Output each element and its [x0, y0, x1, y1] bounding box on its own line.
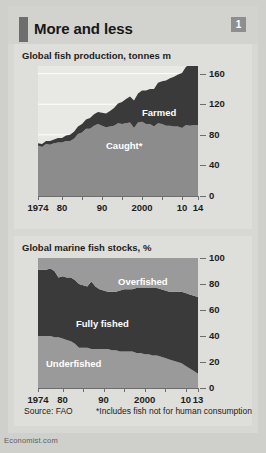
y-tick: 40: [200, 336, 246, 337]
y-tick: 40: [200, 165, 246, 166]
y-tick: 100: [200, 258, 246, 259]
plot-fish-production: [38, 66, 198, 196]
y-tick-mark: [200, 310, 206, 311]
y-tick-mark: [200, 362, 206, 363]
y-tick: 60: [200, 310, 246, 311]
panel-fish-production: Global fish production, tonnes m Caught*…: [14, 44, 252, 229]
x-tick-mark: [82, 196, 83, 200]
panel-title-fish-production: Global fish production, tonnes m: [22, 50, 171, 61]
source-text: Source: FAO: [24, 406, 73, 416]
x-tick-label: 1974: [27, 202, 48, 213]
x-tick-mark: [198, 388, 199, 392]
x-tick-mark: [162, 196, 163, 200]
chart-header: More and less 1: [8, 6, 258, 44]
y-tick-label: 80: [209, 278, 220, 289]
x-tick-mark: [62, 196, 63, 200]
y-tick: 160: [200, 74, 246, 75]
fish-production-svg: [38, 66, 198, 196]
y-tick-label: 120: [209, 98, 225, 109]
panel-marine-fish-stocks: Global marine fish stocks, % Overfished …: [14, 236, 252, 426]
y-tick-label: 40: [209, 330, 220, 341]
y-tick-mark: [200, 284, 206, 285]
x-tick-mark: [38, 388, 39, 392]
y-tick-label: 0: [209, 382, 214, 393]
x-tick-label: 2000: [131, 202, 152, 213]
x-tick-mark: [186, 388, 187, 392]
x-axis-fish-production: 1974809020001014: [38, 196, 198, 216]
x-tick-mark: [102, 196, 103, 200]
x-tick-mark: [63, 388, 64, 392]
title-rule: [19, 17, 28, 42]
x-tick-mark: [104, 388, 105, 392]
chart-footnote: Source: FAO *Includes fish not for human…: [14, 404, 252, 422]
y-tick-mark: [200, 336, 206, 337]
y-tick-mark: [200, 258, 206, 259]
x-tick-label: 14: [193, 202, 204, 213]
series-label-underfished: Underfished: [46, 358, 101, 369]
x-tick-mark: [38, 196, 39, 200]
brand-text: Economist.com: [4, 436, 58, 445]
y-axis-marine-fish-stocks: 0 20 40 60 80: [200, 252, 246, 394]
y-tick-label: 0: [209, 190, 214, 201]
x-tick-label: 10: [177, 202, 188, 213]
series-label-caught: Caught*: [106, 140, 142, 151]
y-tick-label: 40: [209, 159, 220, 170]
x-tick-mark: [182, 196, 183, 200]
y-tick: 20: [200, 362, 246, 363]
y-tick-mark: [200, 196, 206, 197]
y-tick-mark: [200, 104, 206, 105]
y-tick-mark: [200, 74, 206, 75]
y-tick: 0: [200, 388, 246, 389]
y-axis-fish-production: 0 40 80 120 160: [200, 60, 246, 202]
y-tick-label: 20: [209, 356, 220, 367]
y-tick: 80: [200, 284, 246, 285]
x-tick-mark: [124, 388, 125, 392]
footnote-text: *Includes fish not for human consumption: [96, 406, 252, 416]
series-label-farmed: Farmed: [142, 107, 176, 118]
economist-chart-figure: More and less 1 Global fish production, …: [0, 0, 266, 453]
x-tick-mark: [142, 196, 143, 200]
x-tick-mark: [145, 388, 146, 392]
x-tick-mark: [165, 388, 166, 392]
series-label-fully-fished: Fully fished: [76, 318, 129, 329]
y-tick-mark: [200, 388, 206, 389]
x-tick-label: 80: [57, 202, 68, 213]
y-tick-mark: [200, 135, 206, 136]
y-tick-mark: [200, 165, 206, 166]
y-tick: 80: [200, 135, 246, 136]
y-tick-label: 80: [209, 129, 220, 140]
y-tick: 120: [200, 104, 246, 105]
series-label-overfished: Overfished: [118, 276, 168, 287]
x-tick-mark: [198, 196, 199, 200]
y-tick-label: 60: [209, 304, 220, 315]
y-tick-label: 160: [209, 68, 225, 79]
x-tick-mark: [83, 388, 84, 392]
y-tick: 0: [200, 196, 246, 197]
page-title: More and less: [34, 20, 133, 37]
chart-number-badge: 1: [231, 17, 246, 32]
x-tick-mark: [122, 196, 123, 200]
y-tick-label: 100: [209, 252, 225, 263]
panel-title-marine-fish-stocks: Global marine fish stocks, %: [22, 242, 151, 253]
x-tick-label: 90: [97, 202, 108, 213]
